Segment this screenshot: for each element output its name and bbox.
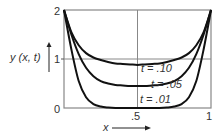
- y-arrowhead-icon: [47, 42, 52, 47]
- y-tick-0: 0: [54, 103, 60, 115]
- x-axis-label: x: [102, 121, 109, 133]
- label-t-10: t = .10: [141, 62, 173, 74]
- x-arrowhead-icon: [145, 126, 151, 131]
- label-t-01: t = .01: [140, 93, 171, 105]
- y-tick-1: 1: [54, 53, 60, 65]
- y-axis-label: y (x, t): [9, 51, 41, 63]
- x-tick-1: 1: [206, 110, 212, 122]
- chart: 2 1 0 .5 1 y (x, t) x t = .10 t = .05 t …: [0, 0, 223, 138]
- y-tick-2: 2: [54, 5, 60, 17]
- label-t-05: t = .05: [151, 78, 183, 90]
- x-tick-0.5: .5: [131, 110, 140, 122]
